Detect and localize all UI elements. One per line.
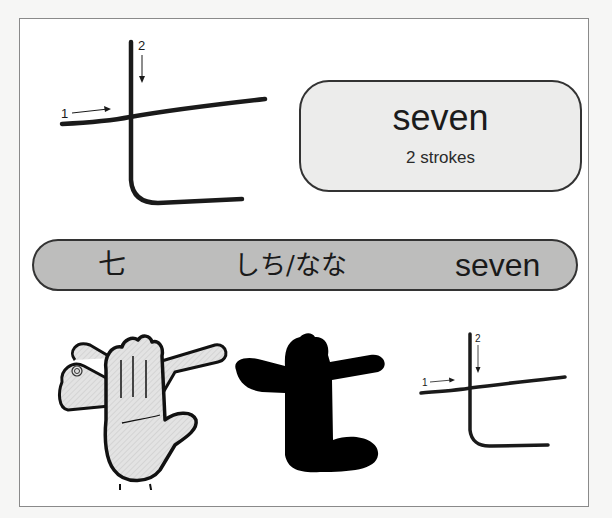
kana-reading: しち/なな bbox=[234, 248, 347, 282]
small-stroke-label-2: 2 bbox=[475, 333, 481, 344]
silhouette-illustration bbox=[232, 325, 392, 490]
meaning-label: seven bbox=[301, 98, 580, 138]
kanji-character: 七 bbox=[98, 248, 126, 282]
stroke-count-label: 2 strokes bbox=[301, 148, 580, 168]
small-stroke-label-1: 1 bbox=[422, 377, 428, 388]
english-meaning: seven bbox=[455, 248, 540, 282]
stroke-order-diagram-large: 1 2 bbox=[55, 35, 275, 215]
stroke-label-1: 1 bbox=[61, 106, 68, 121]
meaning-card: seven 2 strokes bbox=[299, 80, 582, 192]
stroke-order-diagram-small: 1 2 bbox=[415, 330, 575, 460]
hand-gesture-illustration bbox=[55, 320, 235, 490]
reading-banner: 七 しち/なな seven bbox=[32, 239, 578, 291]
stroke-label-2: 2 bbox=[138, 38, 145, 53]
